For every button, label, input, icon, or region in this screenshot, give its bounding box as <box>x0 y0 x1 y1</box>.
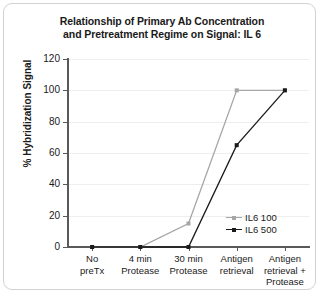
chart-frame: Relationship of Primary Ab Concentration… <box>3 3 316 290</box>
legend-item-il6-100: IL6 100 <box>226 212 300 223</box>
legend-label-il6-100: IL6 100 <box>245 213 277 223</box>
chart-legend: IL6 100 IL6 500 <box>226 212 300 236</box>
legend-swatch-icon-il6-100 <box>226 213 242 222</box>
data-point-marker <box>283 88 287 92</box>
data-point-marker <box>235 143 239 147</box>
data-point-marker <box>138 245 142 249</box>
legend-swatch-icon-il6-500 <box>226 225 242 234</box>
data-point-marker <box>187 245 191 249</box>
series-layer <box>4 4 322 295</box>
data-point-marker <box>235 88 239 92</box>
data-point-marker <box>90 245 94 249</box>
legend-item-il6-500: IL6 500 <box>226 224 300 235</box>
legend-label-il6-500: IL6 500 <box>245 225 277 235</box>
data-point-marker <box>187 222 191 226</box>
